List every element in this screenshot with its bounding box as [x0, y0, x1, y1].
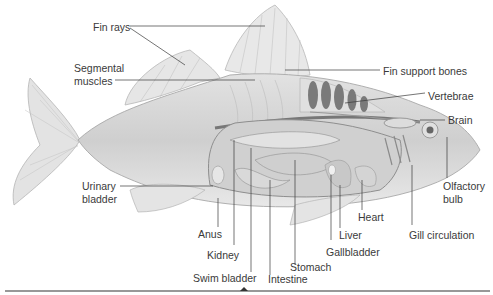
label-intestine: Intestine [268, 273, 308, 285]
fish-illustration [0, 0, 493, 295]
label-gill-circulation: Gill circulation [409, 229, 474, 241]
label-swim-bladder: Swim bladder [193, 272, 257, 284]
label-stomach: Stomach [290, 261, 331, 273]
label-vertebrae: Vertebrae [428, 90, 474, 102]
label-anus: Anus [198, 228, 222, 240]
urinary-bladder [212, 166, 224, 184]
gallbladder [329, 165, 336, 175]
label-gallbladder: Gallbladder [326, 246, 380, 258]
label-fin-support-bones: Fin support bones [383, 65, 467, 77]
label-urinary-bladder-line2: bladder [82, 193, 117, 205]
tail-fin [13, 78, 80, 205]
label-brain: Brain [448, 114, 473, 126]
label-segmental-muscles-line2: muscles [74, 75, 113, 87]
label-liver: Liver [339, 229, 362, 241]
rule-marker [240, 287, 248, 291]
label-olfactory-bulb-line2: bulb [443, 193, 463, 205]
brain [384, 118, 416, 128]
second-dorsal-fin [225, 5, 310, 77]
label-fin-rays: Fin rays [93, 21, 130, 33]
label-heart: Heart [358, 211, 384, 223]
label-urinary-bladder-line1: Urinary [82, 180, 116, 192]
label-kidney: Kidney [207, 249, 239, 261]
label-olfactory-bulb-line1: Olfactory [443, 180, 485, 192]
label-segmental-muscles-line1: Segmental [74, 62, 124, 74]
fish-anatomy-diagram: Fin rays Segmental muscles Fin support b… [0, 0, 493, 295]
